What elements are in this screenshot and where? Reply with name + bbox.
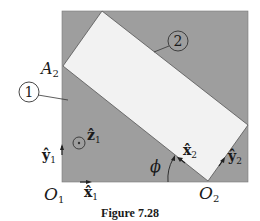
z1-dot-icon <box>78 142 80 144</box>
point-O1-label: O1 <box>44 184 64 205</box>
callout-2-label: 2 <box>174 33 183 49</box>
angle-phi-label: ϕ <box>150 157 161 176</box>
point-A2-label: A2 <box>39 59 59 79</box>
callout-1-label: 1 <box>25 84 34 100</box>
figure-diagram: 1 2 A2 ẑ1 ŷ1 x̂1 O1 ϕ x̂2 ŷ2 O2 <box>0 0 260 221</box>
vector-y1-label: ŷ1 <box>41 147 56 165</box>
point-O2-label: O2 <box>199 183 219 204</box>
figure-caption: Figure 7.28 <box>101 206 159 220</box>
vector-x1-label: x̂1 <box>84 184 98 202</box>
